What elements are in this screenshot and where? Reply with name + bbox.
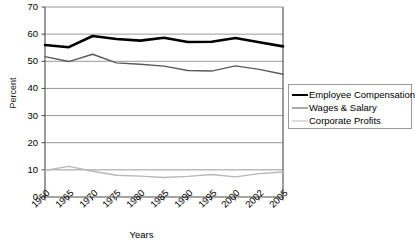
x-axis-title: Years <box>0 229 283 240</box>
legend-swatch-icon <box>291 101 308 114</box>
legend-swatch-icon <box>291 114 308 127</box>
legend-label: Employee Compensation <box>308 89 415 100</box>
legend-swatch-icon <box>291 88 308 101</box>
chart-legend: Employee CompensationWages & SalaryCorpo… <box>288 84 412 129</box>
legend-label: Wages & Salary <box>308 102 377 113</box>
legend-item: Employee Compensation <box>291 88 411 101</box>
legend-label: Corporate Profits <box>308 115 381 126</box>
legend-item: Wages & Salary <box>291 101 411 114</box>
legend-item: Corporate Profits <box>291 114 411 127</box>
